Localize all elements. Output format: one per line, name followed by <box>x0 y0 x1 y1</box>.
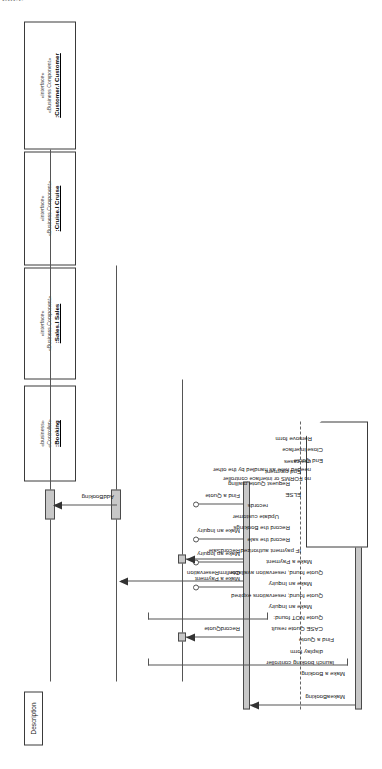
lifeline-stereotype: «Controller» <box>46 419 53 447</box>
activation-bar-sales-recordsale <box>178 554 186 563</box>
message-shaft-make-an-inquiry-2 <box>197 561 243 562</box>
description-line: Quote found, reservation available <box>230 569 323 576</box>
description-title: Description <box>30 702 37 734</box>
arrow-head-recordsale <box>186 555 195 563</box>
description-bracket-inner <box>148 612 268 619</box>
lifeline-stereotype: «Business Component» <box>46 57 53 112</box>
message-label-makeabooking: MakeaBooking <box>305 693 345 699</box>
description-line: Quote NOT found: <box>273 614 323 621</box>
message-label-addbooking: AddBooking <box>82 493 114 499</box>
description-line: Close interface <box>282 446 323 453</box>
lifeline-name: :Customer.I Customer <box>53 53 61 118</box>
description-line: End Quote <box>294 457 323 464</box>
description-line: Request Quote mailing <box>228 480 290 487</box>
message-endpoint-make-a-payment <box>193 584 199 590</box>
description-title-box: Description <box>24 691 43 745</box>
message-endpoint-find-a-quote <box>193 501 199 507</box>
lifeline-header-customer[interactable]: «interface» «Business Component» :Custom… <box>24 21 76 149</box>
arrow-head-recordquote <box>186 633 195 641</box>
lifeline-cruise <box>116 265 117 681</box>
message-shaft-make-an-inquiry-1 <box>197 538 243 539</box>
description-line: Remove form <box>275 435 312 442</box>
description-line: Update customer <box>233 513 279 520</box>
message-shaft-make-a-payment <box>197 586 243 587</box>
message-label-recordsale: RecordSale <box>209 547 240 553</box>
description-line: ELSE <box>285 491 301 498</box>
message-label-find-a-quote: Find a Quote <box>205 492 240 498</box>
description-line: display form <box>290 648 323 655</box>
description-line: Quote found; reservations expired <box>231 592 323 599</box>
lifeline-name: :Booking <box>53 420 61 447</box>
lifeline-name: :Cruise.I Cruise <box>53 185 61 231</box>
arrow-head-addbooking <box>53 501 62 509</box>
note-fold-corner <box>306 420 322 436</box>
description-line: Record the Bookings <box>233 524 290 531</box>
lifeline-stereotype: «Business Component» <box>46 180 53 235</box>
description-line: End payment <box>265 468 301 475</box>
lifeline-stereotype: «Business Component» <box>46 295 53 350</box>
description-line: CASE Quote result <box>272 625 323 632</box>
message-shaft-find-a-quote <box>197 503 243 504</box>
description-line: Make a Booking <box>301 670 345 677</box>
message-endpoint-make-an-inquiry-1 <box>193 536 199 542</box>
description-line: IF payment authorized <box>240 547 301 554</box>
description-line: records <box>248 502 268 509</box>
arrow-head-confirmreservation <box>119 577 128 585</box>
description-line: Make an Inquiry <box>269 580 312 587</box>
description-line: Make a Payment <box>266 558 312 565</box>
lifeline-customer <box>50 149 51 681</box>
activation-bar-sales-recordquote <box>178 632 186 641</box>
description-line: Make an Inquiry <box>269 603 312 610</box>
description-line: Record the sale <box>247 536 290 543</box>
description-line: Find a Quote <box>299 636 334 643</box>
sequence-diagram-canvas: «interface» «Business Component» :Custom… <box>0 0 382 769</box>
diagram-note[interactable]: no FORMS or interface controller needed … <box>306 421 368 547</box>
message-label-recordquote: RecordQuote <box>204 625 240 631</box>
message-shaft-confirmreservation <box>121 580 243 581</box>
message-shaft-addbooking <box>55 504 117 505</box>
message-shaft-makeabooking <box>250 704 355 705</box>
description-bracket-outer <box>148 658 348 665</box>
lifeline-name: :Sales.I Sales <box>53 303 61 343</box>
arrow-head-makeabooking <box>250 701 259 709</box>
